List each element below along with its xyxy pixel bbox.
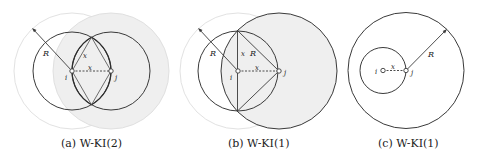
caption-c: (c) W-KI(1) [378, 137, 439, 150]
node-i [70, 69, 74, 73]
label-R-right: R [249, 49, 256, 58]
label-i: i [65, 74, 67, 82]
label-x-base: x [255, 64, 259, 72]
radius-R-line [406, 30, 446, 71]
label-i: i [375, 68, 377, 76]
figure: R x x i j R x R x i j [0, 0, 480, 163]
label-x-side: x [83, 52, 87, 60]
label-R-left: R [209, 49, 216, 58]
node-j [404, 68, 408, 72]
node-i [381, 68, 385, 72]
label-R: R [427, 50, 434, 59]
node-j [277, 69, 281, 73]
caption-b: (b) W-KI(1) [228, 137, 290, 150]
node-i [236, 69, 240, 73]
label-j: j [409, 69, 414, 77]
caption-a: (a) W-KI(2) [61, 137, 122, 150]
label-x-base: x [88, 64, 92, 72]
panel-b: R x R x i j [180, 13, 337, 129]
label-x-side: x [241, 50, 245, 58]
panel-a: R x x i j [14, 13, 169, 129]
label-R: R [42, 49, 49, 58]
label-x: x [391, 63, 395, 71]
label-i: i [230, 74, 232, 82]
panel-c: R x i j [348, 13, 464, 129]
node-j [109, 69, 113, 73]
